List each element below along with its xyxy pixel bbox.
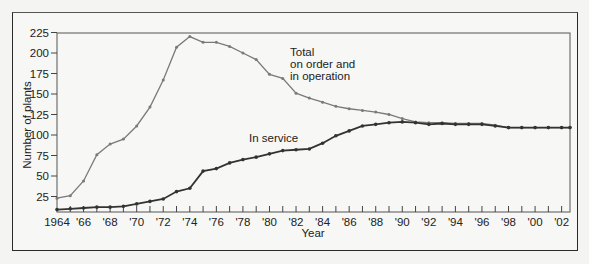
data-point: [135, 202, 139, 206]
x-tick-label: '72: [156, 216, 171, 228]
data-point: [321, 101, 324, 104]
x-tick-label: '94: [448, 216, 464, 228]
data-point: [109, 143, 112, 146]
data-point: [268, 73, 271, 76]
data-point: [175, 190, 179, 194]
data-point: [175, 46, 178, 49]
data-point: [202, 41, 205, 44]
data-point: [321, 141, 325, 145]
data-point: [388, 113, 391, 116]
data-point: [294, 148, 298, 152]
data-point: [308, 147, 312, 151]
x-tick-label: '76: [209, 216, 224, 228]
data-point: [414, 121, 418, 125]
data-point: [162, 79, 165, 82]
data-point: [560, 126, 564, 130]
line-chart: 255075100125150175200225 1964'66'68'70'7…: [0, 0, 589, 264]
data-point: [254, 155, 258, 159]
data-point: [281, 149, 285, 153]
data-point: [467, 123, 471, 127]
y-tick-label: 25: [36, 191, 49, 203]
y-tick-label: 225: [30, 27, 49, 39]
x-tick-label: '88: [368, 216, 383, 228]
x-tick-label: '90: [395, 216, 410, 228]
data-point: [334, 105, 337, 108]
data-point: [454, 123, 458, 127]
data-point: [122, 138, 125, 141]
data-point: [334, 134, 338, 138]
y-tick-label: 200: [30, 47, 49, 59]
x-tick-label: '68: [103, 216, 118, 228]
data-point: [95, 205, 99, 209]
data-point: [295, 92, 298, 95]
data-point: [361, 109, 364, 112]
data-point: [533, 126, 537, 130]
data-point: [400, 120, 404, 124]
data-point: [480, 123, 484, 127]
data-point: [215, 41, 218, 44]
x-tick-label: '70: [129, 216, 144, 228]
x-tick-label: '86: [342, 216, 357, 228]
data-point: [161, 197, 165, 201]
data-point: [547, 126, 551, 130]
data-point: [82, 179, 85, 182]
data-point: [135, 124, 138, 127]
x-axis-title: Year: [301, 227, 324, 239]
data-point: [374, 111, 377, 114]
x-tick-label: '98: [501, 216, 516, 228]
x-tick-label: '96: [474, 216, 489, 228]
data-point: [82, 206, 86, 210]
data-point: [228, 45, 231, 48]
x-tick-label: '78: [235, 216, 250, 228]
data-point: [308, 97, 311, 100]
annotation-in-service: In service: [249, 132, 298, 144]
data-point: [55, 208, 59, 212]
annotation-total-line3: in operation: [290, 70, 350, 82]
data-point: [347, 129, 351, 133]
x-tick-label: '92: [421, 216, 436, 228]
data-point: [387, 121, 391, 125]
data-point: [255, 58, 258, 61]
data-point: [520, 126, 524, 130]
data-point: [108, 205, 112, 209]
data-point: [507, 126, 511, 130]
x-tick-label: '02: [554, 216, 569, 228]
data-point: [568, 126, 572, 130]
x-tick-label: '80: [262, 216, 277, 228]
y-axis-title: Number of plants: [21, 81, 33, 169]
annotation-total-line1: Total: [290, 46, 314, 58]
y-tick-label: 175: [30, 68, 49, 80]
data-point: [201, 169, 205, 173]
x-tick-label: '00: [528, 216, 543, 228]
x-tick-label: 1964: [44, 216, 70, 228]
data-point: [348, 107, 351, 110]
y-tick-label: 75: [36, 150, 49, 162]
data-point: [228, 161, 232, 165]
data-point: [56, 197, 59, 200]
data-point: [215, 167, 219, 171]
data-point: [361, 124, 365, 128]
data-point: [268, 152, 272, 156]
series-in-service-line: [57, 122, 570, 210]
data-point: [188, 35, 191, 38]
x-tick-label: '66: [76, 216, 91, 228]
data-point: [241, 158, 245, 162]
x-tick-label: '74: [182, 216, 198, 228]
data-point: [68, 207, 72, 211]
data-point: [374, 123, 378, 127]
data-point: [69, 194, 72, 197]
y-tick-label: 50: [36, 170, 49, 182]
data-point: [95, 153, 98, 156]
data-point: [148, 106, 151, 109]
data-point: [440, 122, 444, 126]
data-point: [427, 123, 431, 127]
data-point: [148, 200, 152, 204]
data-point: [281, 77, 284, 80]
data-point: [122, 205, 126, 209]
data-point: [188, 187, 192, 191]
data-point: [493, 124, 497, 128]
x-axis: 1964'66'68'70'72'74'76'78'80'82'84'86'88…: [44, 206, 569, 228]
annotation-total-line2: on order and: [290, 58, 355, 70]
y-axis: 255075100125150175200225: [30, 27, 57, 203]
data-point: [401, 117, 404, 120]
